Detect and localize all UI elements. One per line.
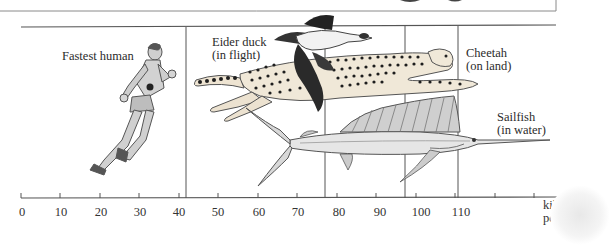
x-axis [21,193,557,198]
tick-label: 0 [19,205,25,220]
duck-label: Eider duck (in flight) [212,36,267,62]
duck-context: (in flight) [212,49,267,62]
tick-label: 90 [374,205,387,220]
sailfish-context: (in water) [497,124,546,137]
tick-label: 60 [253,205,266,220]
cheetah-label: Cheetah (on land) [466,47,511,73]
tick-label: 40 [173,205,186,220]
tick-label: 80 [333,205,346,220]
tick-label: 20 [95,205,108,220]
runner-illustration [90,44,176,175]
sailfish-label: Sailfish (in water) [497,111,546,137]
page-curl-shadow [550,185,610,245]
human-name: Fastest human [62,49,134,63]
tick-label: 10 [55,205,68,220]
tick-label: 70 [292,205,305,220]
frame-lines [0,0,556,27]
tick-label: 30 [134,205,147,220]
tick-label: 50 [212,205,225,220]
tick-label: 110 [452,205,470,220]
tick-label: 100 [412,205,431,220]
human-label: Fastest human [62,50,134,63]
cheetah-context: (on land) [466,60,511,73]
